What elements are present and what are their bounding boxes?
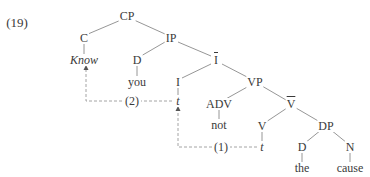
node-v-bar: V bbox=[286, 98, 297, 110]
leaf-know: Know bbox=[69, 54, 99, 66]
node-d-object: D bbox=[297, 141, 308, 153]
node-dp: DP bbox=[317, 120, 334, 132]
leaf-not: not bbox=[210, 119, 227, 131]
leaf-you: you bbox=[127, 76, 147, 88]
node-n: N bbox=[345, 141, 356, 153]
node-vp: VP bbox=[246, 76, 263, 88]
leaf-the: the bbox=[294, 162, 311, 174]
movement-label-1: (1) bbox=[212, 141, 230, 153]
leaf-i-trace: t bbox=[175, 95, 180, 107]
leaf-cause: cause bbox=[336, 162, 365, 174]
node-cp: CP bbox=[119, 10, 136, 22]
node-i: I bbox=[175, 76, 181, 88]
node-i-bar: I bbox=[213, 54, 219, 66]
node-adv: ADV bbox=[205, 98, 233, 110]
leaf-v-trace: t bbox=[259, 141, 264, 153]
node-c: C bbox=[79, 32, 89, 44]
node-ip: IP bbox=[165, 32, 178, 44]
node-v: V bbox=[257, 120, 268, 132]
tree-branches bbox=[0, 0, 370, 177]
example-number: (19) bbox=[5, 16, 29, 29]
node-d-subject: D bbox=[132, 54, 143, 66]
movement-label-2: (2) bbox=[123, 95, 141, 107]
